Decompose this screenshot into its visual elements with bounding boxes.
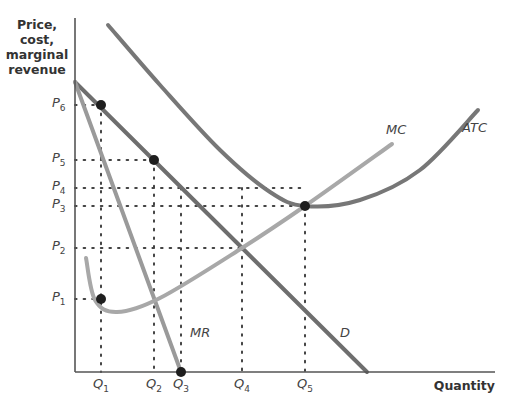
y-tick-label: P4 [52, 178, 66, 196]
y-tick-label: P3 [52, 196, 66, 214]
y-tick-label: P1 [52, 289, 66, 307]
d-label: D [340, 325, 350, 340]
y-axis-label-line: marginal [0, 47, 74, 62]
mr-curve [75, 82, 181, 372]
y-axis-label-line: revenue [0, 62, 74, 77]
x-tick-label: Q5 [297, 376, 313, 394]
marked-point [96, 100, 106, 110]
mr-label: MR [190, 325, 210, 340]
x-tick-label: Q3 [173, 376, 189, 394]
y-axis-label-line: cost, [0, 32, 74, 47]
x-tick-label: Q4 [234, 376, 250, 394]
mc-label: MC [386, 122, 406, 137]
y-axis-label-line: Price, [0, 17, 74, 32]
y-tick-label: P2 [52, 238, 66, 256]
d-curve [75, 82, 367, 372]
x-axis-label: Quantity [434, 378, 495, 393]
y-axis-label: Price, cost, marginal revenue [0, 17, 74, 77]
atc-curve [108, 25, 478, 206]
marked-point [96, 294, 106, 304]
x-tick-label: Q2 [146, 376, 162, 394]
monopolistic-competition-chart [0, 0, 511, 411]
marked-point [300, 201, 310, 211]
y-tick-label: P6 [52, 95, 66, 113]
x-tick-label: Q1 [93, 376, 109, 394]
marked-point [149, 155, 159, 165]
atc-label: ATC [462, 120, 487, 135]
y-tick-label: P5 [52, 150, 66, 168]
curves [75, 25, 478, 372]
